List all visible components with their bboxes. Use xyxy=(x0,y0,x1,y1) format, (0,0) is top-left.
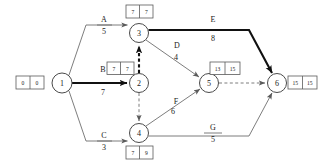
time-box-node-4-late: 9 xyxy=(145,150,148,156)
time-box-node-5: 13 15 xyxy=(210,62,240,75)
project-network-diagram: A 5 B 7 C 3 D 4 E 8 xyxy=(0,0,318,166)
edge-C-line xyxy=(69,91,128,141)
edge-C-duration: 3 xyxy=(102,143,106,152)
node-3-label: 3 xyxy=(137,29,141,38)
node-6[interactable]: 6 xyxy=(268,74,287,93)
network-canvas: A 5 B 7 C 3 D 4 E 8 xyxy=(0,0,318,166)
edge-E-duration: 8 xyxy=(211,34,215,43)
time-box-node-2: 7 7 xyxy=(107,62,134,75)
edge-F: F 6 xyxy=(146,89,200,126)
node-1-label: 1 xyxy=(60,79,64,88)
node-2-label: 2 xyxy=(137,79,141,88)
edge-A-label: A xyxy=(101,15,107,24)
time-box-node-1-late: 0 xyxy=(36,80,39,86)
edge-C: C 3 xyxy=(69,91,128,152)
time-box-node-5-late: 15 xyxy=(230,66,236,72)
edge-G: G 5 xyxy=(149,93,273,144)
edge-B-label: B xyxy=(100,65,105,74)
node-5-label: 5 xyxy=(207,79,211,88)
edge-D-label: D xyxy=(174,41,180,50)
time-box-node-5-early: 13 xyxy=(215,66,221,72)
node-5[interactable]: 5 xyxy=(200,74,219,93)
edge-C-label: C xyxy=(101,131,106,140)
edge-A-duration: 5 xyxy=(102,27,106,36)
time-box-node-6: 15 15 xyxy=(288,76,317,89)
time-box-node-3-early: 7 xyxy=(131,9,134,15)
node-4[interactable]: 4 xyxy=(130,124,149,143)
node-3[interactable]: 3 xyxy=(130,24,149,43)
time-box-node-1: 0 0 xyxy=(16,76,44,89)
time-box-node-3-late: 7 xyxy=(145,9,148,15)
time-box-node-6-early: 15 xyxy=(292,80,298,86)
edge-F-duration: 6 xyxy=(171,107,175,116)
edge-G-duration: 5 xyxy=(211,135,215,144)
edge-G-label: G xyxy=(210,123,216,132)
edge-E-label: E xyxy=(211,15,216,24)
node-4-label: 4 xyxy=(137,129,141,138)
time-box-node-2-late: 7 xyxy=(126,66,129,72)
node-2[interactable]: 2 xyxy=(130,74,149,93)
node-1[interactable]: 1 xyxy=(52,73,72,93)
time-box-node-2-early: 7 xyxy=(112,66,115,72)
time-box-node-4: 7 9 xyxy=(126,146,153,159)
time-box-node-3: 7 7 xyxy=(126,5,153,18)
edge-F-label: F xyxy=(174,97,179,106)
edge-D-line xyxy=(146,40,199,77)
time-box-node-1-early: 0 xyxy=(22,80,25,86)
time-box-node-6-late: 15 xyxy=(307,80,313,86)
edge-B-duration: 7 xyxy=(101,88,105,97)
node-6-label: 6 xyxy=(275,79,279,88)
edge-D: D 4 xyxy=(146,40,199,77)
edge-D-duration: 4 xyxy=(174,53,178,62)
time-box-node-4-early: 7 xyxy=(131,150,134,156)
